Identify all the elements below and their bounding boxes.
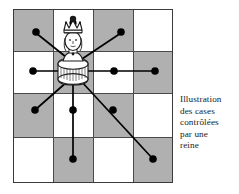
queen-pendant: [72, 53, 75, 56]
square-r0c2: [93, 9, 133, 51]
queen-crown-jewel: [70, 16, 76, 22]
caption-line-3: contrôlées: [180, 117, 238, 129]
dot-down-2: [69, 155, 77, 163]
caption-line-4: par une: [180, 129, 238, 141]
caption-line-5: reine: [180, 140, 238, 152]
dot-down-left: [31, 106, 39, 114]
dot-right-2: [151, 67, 159, 75]
square-r3c2: [93, 137, 133, 183]
chessboard: [13, 9, 173, 183]
square-r2c3: [133, 93, 173, 137]
dot-left: [29, 67, 37, 75]
dot-down-right-2: [149, 155, 157, 163]
caption-line-2: des cases: [180, 106, 238, 118]
dot-down-1: [69, 106, 77, 114]
queen-control-figure: Illustration des cases contrôlées par un…: [0, 0, 239, 194]
dot-down-right-1: [109, 106, 117, 114]
dot-up-left: [32, 28, 40, 36]
dot-up-right: [117, 28, 125, 36]
chessboard-svg: [13, 9, 173, 183]
square-r0c3: [133, 9, 173, 51]
figure-caption: Illustration des cases contrôlées par un…: [180, 94, 238, 152]
dot-right-1: [110, 67, 118, 75]
square-r3c0: [13, 137, 53, 183]
caption-line-1: Illustration: [180, 94, 238, 106]
